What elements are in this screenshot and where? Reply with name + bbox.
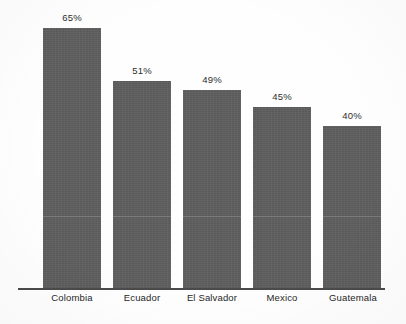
bar-group-colombia[interactable]: 65% [43, 28, 101, 289]
x-tick-label-guatemala: Guatemala [316, 292, 390, 303]
bar-value-label: 45% [253, 91, 311, 102]
x-tick-label-colombia: Colombia [36, 292, 108, 303]
bar-value-label: 51% [113, 65, 171, 76]
bar-group-mexico[interactable]: 45% [253, 107, 311, 289]
bar-guatemala[interactable] [323, 126, 381, 289]
bar-ecuador[interactable] [113, 81, 171, 289]
bar-value-label: 49% [183, 74, 241, 85]
plot-area: 65% 51% 49% 45% 40% [0, 0, 406, 289]
bar-value-label: 40% [323, 110, 381, 121]
x-axis-tick-labels: Colombia Ecuador El Salvador Mexico Guat… [0, 292, 406, 314]
bar-el-salvador[interactable] [183, 90, 241, 289]
x-axis-line [18, 288, 385, 290]
x-tick-label-mexico: Mexico [249, 292, 315, 303]
bar-group-guatemala[interactable]: 40% [323, 126, 381, 289]
bar-chart: 65% 51% 49% 45% 40% Colombia Ecuador El … [0, 0, 406, 324]
x-tick-label-el-salvador: El Salvador [174, 292, 250, 303]
bar-mexico[interactable] [253, 107, 311, 289]
x-tick-label-ecuador: Ecuador [108, 292, 176, 303]
bar-group-ecuador[interactable]: 51% [113, 81, 171, 289]
bar-colombia[interactable] [43, 28, 101, 289]
bar-value-label: 65% [43, 12, 101, 23]
bar-group-el-salvador[interactable]: 49% [183, 90, 241, 289]
